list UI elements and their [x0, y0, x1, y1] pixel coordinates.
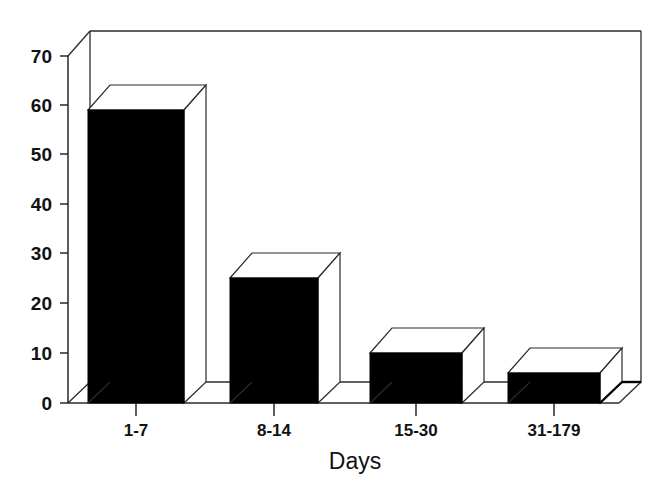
bar-1-side-face — [184, 85, 206, 403]
y-axis-label-20: 20 — [31, 293, 52, 314]
y-axis-label-60: 60 — [31, 95, 52, 116]
y-axis-label-10: 10 — [31, 343, 52, 364]
x-axis-label-4: 31-179 — [528, 421, 581, 440]
x-axis-label-3: 15-30 — [394, 421, 437, 440]
y-axis-label-0: 0 — [41, 393, 52, 414]
y-axis-label-70: 70 — [31, 46, 52, 67]
x-axis-title: Days — [329, 448, 381, 474]
bar-group-2[interactable] — [230, 253, 340, 403]
y-axis-label-40: 40 — [31, 194, 52, 215]
x-axis-label-1: 1-7 — [124, 421, 149, 440]
y-axis-label-50: 50 — [31, 144, 52, 165]
chart-canvas: 70 60 50 40 30 20 10 0 — [0, 0, 670, 480]
bar-3-front-face — [370, 353, 462, 403]
bar-2-front-face — [230, 278, 318, 403]
bar-group-1[interactable] — [88, 85, 206, 403]
bar-group-3[interactable] — [370, 328, 484, 403]
y-axis-label-30: 30 — [31, 243, 52, 264]
bar-2-side-face — [318, 253, 340, 403]
bar-1-front-face — [88, 110, 184, 403]
bar-chart-figure: 70 60 50 40 30 20 10 0 — [0, 0, 670, 480]
bar-4-front-face — [508, 373, 600, 403]
x-axis-label-2: 8-14 — [257, 421, 292, 440]
